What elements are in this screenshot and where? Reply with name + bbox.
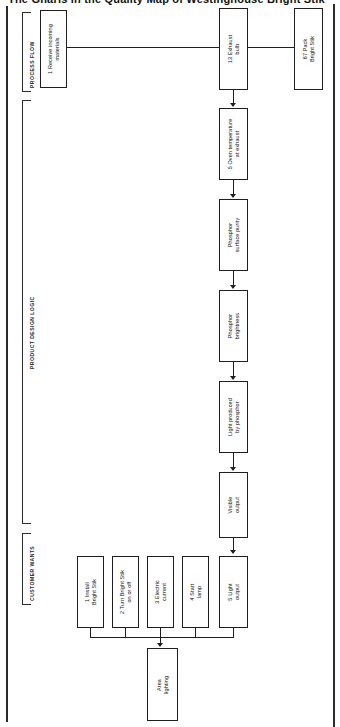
connector-merge-bus bbox=[90, 637, 234, 638]
arrowhead-light-produced-to-visible bbox=[230, 467, 236, 471]
node-label-light-produced-by-phosphor: Light producedby phosphor bbox=[227, 398, 240, 436]
section-label-process-flow: PROCESS FLOW bbox=[29, 41, 35, 88]
connector-exhaust-to-pack bbox=[248, 47, 294, 48]
node-exhaust-bulb[interactable]: 13 Exhaustbulb bbox=[219, 8, 248, 90]
section-label-product-design-logic: PRODUCT DESIGN LOGIC bbox=[29, 296, 35, 369]
node-visible-output[interactable]: Visibleoutput bbox=[219, 472, 248, 538]
node-pack-bright-stik[interactable]: 67 PackBright Stik bbox=[294, 8, 323, 90]
node-label-pack-bright-stik: 67 PackBright Stik bbox=[302, 36, 315, 62]
arrowhead-exhaust-to-oven bbox=[230, 103, 236, 107]
node-light-output[interactable]: 5 Lightoutput bbox=[219, 556, 248, 628]
node-label-electric-current: 3 Electriccurrent bbox=[154, 580, 167, 604]
page-title-strip: The Gnarls in the Quality Map of Westing… bbox=[0, 0, 340, 9]
page-border-left bbox=[6, 6, 8, 722]
node-electric-current[interactable]: 3 Electriccurrent bbox=[147, 556, 174, 628]
node-area-lighting[interactable]: Arealighting bbox=[147, 648, 178, 721]
arrowhead-bus-to-area-lighting bbox=[157, 643, 163, 647]
node-phosphor-brightness[interactable]: Phosphorbrightness bbox=[219, 290, 248, 362]
arrowhead-visible-to-light-output bbox=[230, 550, 236, 554]
node-label-start-lamp: 4 Startlamp bbox=[189, 584, 202, 601]
diagram-sheet: The Gnarls in the Quality Map of Westing… bbox=[0, 0, 340, 727]
section-label-customer-wants: CUSTOMER WANTS bbox=[29, 546, 35, 601]
arrowhead-purity-to-brightness bbox=[230, 285, 236, 289]
node-start-lamp[interactable]: 4 Startlamp bbox=[182, 556, 209, 628]
node-phosphor-surface-purity[interactable]: Phosphorsurface purity bbox=[219, 199, 248, 271]
node-label-light-output: 5 Lightoutput bbox=[227, 583, 240, 600]
node-label-oven-temperature-at-exhaust: 5 Oven temperatureat exhaust bbox=[227, 119, 240, 170]
arrowhead-oven-to-phosphor-purity bbox=[230, 194, 236, 198]
node-label-receive-incoming-materials: 1 Receive incomingmaterials bbox=[47, 24, 60, 74]
page-title: The Gnarls in the Quality Map of Westing… bbox=[8, 0, 325, 5]
node-oven-temperature-at-exhaust[interactable]: 5 Oven temperatureat exhaust bbox=[219, 108, 248, 180]
node-label-phosphor-surface-purity: Phosphorsurface purity bbox=[227, 218, 240, 252]
node-receive-incoming-materials[interactable]: 1 Receive incomingmaterials bbox=[40, 10, 67, 88]
page-border-right bbox=[333, 4, 335, 727]
node-label-install-bright-stik: 1 InstallBright Stik bbox=[84, 579, 97, 605]
node-label-phosphor-brightness: Phosphorbrightness bbox=[227, 313, 240, 339]
node-turn-bright-stik-on-off[interactable]: 2 Turn Bright Stikon or off bbox=[112, 556, 139, 628]
node-label-visible-output: Visibleoutput bbox=[227, 497, 240, 514]
node-label-turn-bright-stik-on-off: 2 Turn Bright Stikon or off bbox=[119, 570, 132, 614]
node-light-produced-by-phosphor[interactable]: Light producedby phosphor bbox=[219, 381, 248, 453]
node-label-area-lighting: Arealighting bbox=[156, 675, 169, 693]
arrowhead-brightness-to-light-produced bbox=[230, 376, 236, 380]
connector-receive-to-exhaust bbox=[67, 47, 219, 48]
node-label-exhaust-bulb: 13 Exhaustbulb bbox=[227, 35, 240, 63]
node-install-bright-stik[interactable]: 1 InstallBright Stik bbox=[77, 556, 104, 628]
